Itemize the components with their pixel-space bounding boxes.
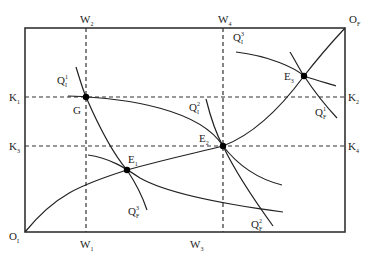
box-frame — [25, 28, 345, 232]
label-k1: K1 — [9, 91, 20, 105]
origin-of-label: OF — [349, 13, 361, 27]
point-e2 — [220, 143, 226, 149]
label-e2: E2 — [199, 132, 209, 146]
point-e3 — [301, 73, 307, 79]
isoquant-qf2 — [206, 99, 273, 226]
isoquant-qf3 — [76, 67, 147, 210]
label-qf2: Q2F — [251, 218, 263, 232]
label-g: G — [73, 104, 81, 116]
point-e1 — [124, 167, 130, 173]
label-qi3: Q3I — [233, 31, 244, 45]
point-g — [83, 94, 89, 100]
contract-curve — [25, 28, 345, 232]
label-qi2: Q2I — [189, 101, 200, 115]
isoquant-qi1 — [68, 96, 282, 185]
label-k2: K2 — [348, 91, 359, 105]
label-w4: W4 — [218, 13, 231, 27]
label-qf3: Q3F — [128, 205, 140, 219]
label-w1: W1 — [80, 238, 93, 252]
label-w3: W3 — [190, 238, 203, 252]
label-w2: W2 — [80, 13, 93, 27]
edgeworth-box-diagram: OI OF W2 W4 W1 W3 K1 K3 K2 K4 G E1 E2 E3… — [0, 0, 368, 259]
label-k4: K4 — [348, 140, 359, 154]
label-e3: E3 — [284, 70, 294, 84]
label-e1: E1 — [128, 153, 138, 167]
label-k3: K3 — [9, 140, 20, 154]
label-qi1: Q1I — [57, 74, 68, 88]
label-qf1: Q1F — [315, 106, 327, 120]
origin-oi-label: OI — [9, 230, 19, 244]
isoquant-qi2 — [88, 155, 283, 212]
